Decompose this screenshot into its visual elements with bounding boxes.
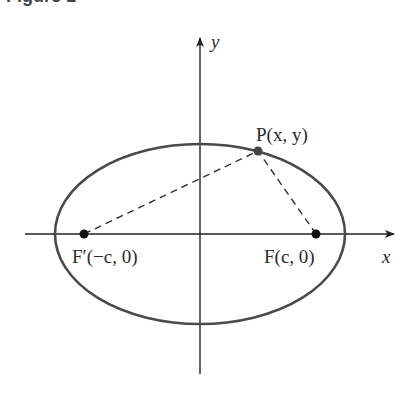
point-f-prime [80,230,89,239]
x-axis-label: x [381,246,391,267]
point-f [312,230,321,239]
point-f-label: F(c, 0) [264,246,315,268]
point-p [254,147,263,156]
ellipse-diagram: y x P(x, y) F′(−c, 0) F(c, 0) [0,0,418,396]
dashed-line-f-p [258,151,316,234]
y-axis-label: y [209,31,220,52]
point-f-prime-label: F′(−c, 0) [72,246,138,268]
point-p-label: P(x, y) [256,124,308,146]
